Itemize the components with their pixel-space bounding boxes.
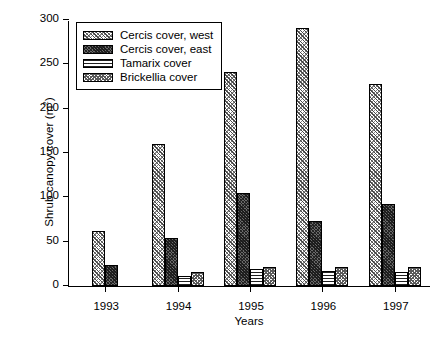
x-tick: 1996 (322, 286, 323, 292)
bar (395, 272, 408, 286)
chart-legend: Cercis cover, westCercis cover, eastTama… (76, 22, 222, 90)
bar (408, 267, 421, 287)
bar (382, 204, 395, 286)
y-tick-label: 50 (46, 234, 59, 246)
y-tick-label: 150 (40, 145, 59, 157)
x-tick-label: 1995 (238, 300, 264, 312)
bar (369, 84, 382, 286)
y-tick-label: 200 (40, 101, 59, 113)
y-tick-label: 250 (40, 56, 59, 68)
x-tick: 1994 (178, 286, 179, 292)
y-tick-label: 0 (53, 278, 59, 290)
x-tick-label: 1994 (166, 300, 192, 312)
legend-swatch (83, 73, 113, 82)
legend-swatch (83, 31, 113, 40)
x-tick: 1993 (105, 286, 106, 292)
y-tick: 300 (63, 19, 69, 20)
legend-label: Brickellia cover (120, 71, 197, 83)
x-tick: 1997 (395, 286, 396, 292)
legend-item: Tamarix cover (83, 56, 213, 70)
x-axis-title: Years (68, 315, 430, 327)
legend-label: Cercis cover, west (120, 29, 213, 41)
x-tick: 1995 (250, 286, 251, 292)
x-tick-label: 1997 (383, 300, 409, 312)
y-axis-title-text: Shrub canopy cover (m (43, 106, 55, 227)
y-tick-label: 100 (40, 189, 59, 201)
legend-label: Cercis cover, east (120, 43, 211, 55)
y-axis-title: Shrub canopy cover (m2) (41, 62, 55, 262)
legend-item: Brickellia cover (83, 70, 213, 84)
y-tick-label: 300 (40, 12, 59, 24)
legend-swatch (83, 59, 113, 68)
bar-chart-figure: Shrub canopy cover (m2) 0501001502002503… (0, 0, 447, 339)
x-tick-label: 1993 (93, 300, 119, 312)
legend-label: Tamarix cover (120, 57, 192, 69)
legend-item: Cercis cover, east (83, 42, 213, 56)
x-tick-label: 1996 (311, 300, 337, 312)
legend-swatch (83, 45, 113, 54)
legend-item: Cercis cover, west (83, 28, 213, 42)
